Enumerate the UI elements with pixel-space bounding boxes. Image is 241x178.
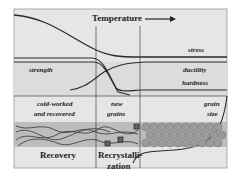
- grain-size-label-line1: grain: [204, 100, 220, 108]
- grain-size-label-line2: size: [207, 110, 218, 118]
- new-grains-label-line1: new: [111, 100, 123, 108]
- new-grains-label-line2: grains: [107, 110, 125, 118]
- strength-label: strength: [29, 66, 53, 74]
- recrystallization-stage-label-line1: Recrystalli-: [98, 150, 142, 160]
- recovery-stage-label: Recovery: [40, 150, 76, 160]
- cold-worked-label-line1: cold-worked: [37, 100, 72, 108]
- ductility-label: ductility: [183, 66, 206, 74]
- hardness-label: hardness: [182, 79, 208, 87]
- recrystallization-stage-label-line2: zation: [107, 161, 131, 171]
- temperature-label: Temperature: [92, 13, 142, 23]
- recrystallized-grains: [142, 123, 226, 147]
- cold-worked-label-line2: and recovered: [34, 110, 75, 118]
- stress-label: stress: [188, 46, 204, 54]
